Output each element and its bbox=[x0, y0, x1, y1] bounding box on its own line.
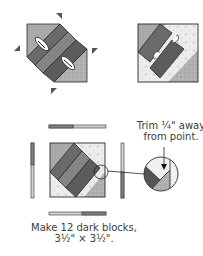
dog-ear-icon bbox=[14, 45, 20, 51]
trim-callout-line1: Trim ¼" away bbox=[136, 120, 203, 131]
caption-line1: Make 12 dark blocks, bbox=[18, 222, 150, 233]
dog-ear-icon bbox=[92, 48, 98, 54]
trim-callout: Trim ¼" away from point. bbox=[136, 120, 203, 142]
step-2-diagram bbox=[138, 24, 198, 82]
trim-callout-line2: from point. bbox=[136, 131, 203, 142]
caption-line2: 3½" × 3½". bbox=[18, 233, 150, 244]
caption: Make 12 dark blocks, 3½" × 3½". bbox=[18, 222, 150, 244]
dog-ear-icon bbox=[56, 13, 62, 19]
step-1-diagram bbox=[14, 13, 98, 94]
dog-ear-icon bbox=[51, 88, 57, 94]
